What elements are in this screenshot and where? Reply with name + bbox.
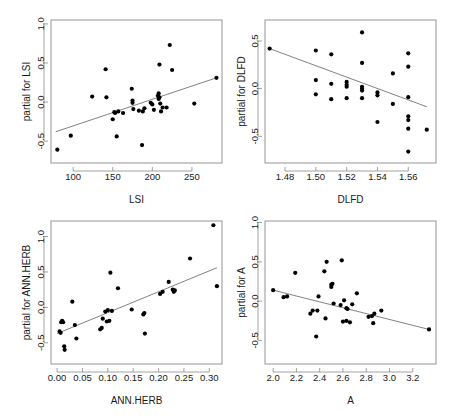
panel-lsi-data-point bbox=[164, 105, 168, 109]
panel-lsi-y-ticklabel: -0.5 bbox=[35, 133, 46, 149]
panel-annherb-data-point bbox=[62, 344, 66, 348]
panel-annherb-data-point bbox=[107, 319, 111, 323]
panel-annherb-y-ticklabel: -0.5 bbox=[35, 335, 46, 351]
panel-dlfd-x-ticklabel: 1.54 bbox=[368, 171, 387, 182]
panel-annherb-data-point bbox=[100, 326, 104, 330]
panel-a-x-axis-label: A bbox=[347, 395, 354, 406]
panel-annherb-data-point bbox=[59, 331, 63, 335]
panel-dlfd-data-point bbox=[406, 51, 410, 55]
panel-lsi-x-axis-label: LSI bbox=[129, 194, 144, 205]
panel-a-frame bbox=[265, 221, 436, 364]
panel-dlfd-data-point bbox=[268, 47, 272, 51]
panel-annherb-data-point bbox=[74, 336, 78, 340]
panel-annherb-x-ticklabel: 0.15 bbox=[124, 372, 143, 383]
panel-a-y-axis-label: partial for A bbox=[236, 267, 247, 318]
panel-annherb-x-ticklabel: 0.00 bbox=[48, 372, 67, 383]
panel-lsi-x-ticklabel: 100 bbox=[65, 171, 81, 182]
panel-annherb-y-ticklabel: 1.0 bbox=[35, 230, 46, 243]
panel-lsi-data-point bbox=[157, 91, 161, 95]
panel-lsi-data-point bbox=[121, 111, 125, 115]
panel-annherb-data-point bbox=[143, 331, 147, 335]
panel-lsi-data-point bbox=[104, 95, 108, 99]
panel-a-data-point bbox=[371, 321, 375, 325]
panel-dlfd-data-point bbox=[329, 97, 333, 101]
panel-dlfd-plot-area: -0.50.00.5partial for DLFD1.481.501.521.… bbox=[236, 20, 436, 205]
panel-lsi-data-point bbox=[168, 43, 172, 47]
panel-a-data-point bbox=[427, 327, 431, 331]
panel-dlfd-y-ticklabel: -0.5 bbox=[249, 128, 260, 144]
panel-a-data-point bbox=[323, 316, 327, 320]
panel-lsi-data-point bbox=[170, 68, 174, 72]
panel-annherb-data-point bbox=[70, 300, 74, 304]
panel-lsi-trend-line bbox=[56, 78, 217, 132]
panel-lsi-data-point bbox=[131, 107, 135, 111]
panel-annherb-frame bbox=[51, 221, 222, 364]
panel-annherb-x-axis-label: ANN.HERB bbox=[111, 395, 163, 406]
panel-annherb-data-point bbox=[142, 311, 146, 315]
panel-a: -0.50.00.51.0partial for A2.02.22.42.62.… bbox=[229, 209, 458, 418]
panel-lsi-y-ticklabel: 0.0 bbox=[35, 95, 46, 108]
panel-dlfd-y-axis-label: partial for DLFD bbox=[236, 56, 247, 127]
panel-annherb-plot-area: -0.50.00.51.0partial for ANN.HERB0.000.0… bbox=[21, 221, 222, 406]
panel-a-data-point bbox=[311, 308, 315, 312]
panel-lsi-y-ticklabel: 0.5 bbox=[35, 56, 46, 69]
panel-annherb-trend-line bbox=[57, 268, 217, 334]
panel-annherb-y-ticklabel: 0.5 bbox=[35, 265, 46, 278]
panel-annherb-data-point bbox=[108, 271, 112, 275]
panel-a-x-ticklabel: 3.2 bbox=[406, 372, 419, 383]
panel-annherb-data-point bbox=[211, 223, 215, 227]
panel-dlfd-data-point bbox=[375, 120, 379, 124]
panel-dlfd-data-point bbox=[360, 88, 364, 92]
panel-dlfd-x-ticklabel: 1.50 bbox=[307, 171, 326, 182]
panel-dlfd: -0.50.00.5partial for DLFD1.481.501.521.… bbox=[229, 0, 458, 209]
panel-annherb-data-point bbox=[167, 280, 171, 284]
panel-lsi-data-point bbox=[116, 109, 120, 113]
panel-lsi: -0.50.00.51.0partial for LSI100150200250… bbox=[0, 0, 229, 209]
panel-lsi-data-point bbox=[214, 76, 218, 80]
panel-a-y-ticklabel: -0.5 bbox=[249, 332, 260, 348]
panel-a-x-ticklabel: 2.8 bbox=[360, 372, 373, 383]
panel-lsi-data-point bbox=[104, 67, 108, 71]
panel-lsi-data-point bbox=[115, 134, 119, 138]
panel-lsi-data-point bbox=[130, 87, 134, 91]
panel-lsi-data-point bbox=[158, 102, 162, 106]
panel-dlfd-x-ticklabel: 1.56 bbox=[399, 171, 418, 182]
panel-dlfd-data-point bbox=[314, 48, 318, 52]
panel-a-data-point bbox=[341, 319, 345, 323]
panel-lsi-y-ticklabel: 1.0 bbox=[35, 17, 46, 30]
panel-lsi-frame bbox=[51, 20, 222, 163]
panel-a-x-ticklabel: 2.2 bbox=[290, 372, 303, 383]
panel-annherb-data-point bbox=[101, 317, 105, 321]
panel-annherb-data-point bbox=[106, 308, 110, 312]
panel-a-data-point bbox=[285, 294, 289, 298]
panel-dlfd-data-point bbox=[425, 128, 429, 132]
panel-annherb-x-ticklabel: 0.20 bbox=[149, 372, 168, 383]
panel-lsi-data-point bbox=[157, 62, 161, 66]
panel-a-data-point bbox=[379, 308, 383, 312]
panel-lsi-x-ticklabel: 150 bbox=[105, 171, 121, 182]
panel-annherb-x-ticklabel: 0.30 bbox=[200, 372, 219, 383]
panel-a-data-point bbox=[271, 288, 275, 292]
panel-lsi-x-ticklabel: 200 bbox=[144, 171, 160, 182]
panel-a-data-point bbox=[345, 307, 349, 311]
panel-dlfd-frame bbox=[265, 20, 436, 163]
panel-annherb-data-point bbox=[130, 307, 134, 311]
panel-a-x-ticklabel: 3.0 bbox=[383, 372, 396, 383]
panel-dlfd-data-point bbox=[329, 82, 333, 86]
panel-a-y-ticklabel: 1.0 bbox=[249, 216, 260, 229]
panel-a-data-point bbox=[314, 334, 318, 338]
panel-annherb-data-point bbox=[161, 290, 165, 294]
panel-dlfd-data-point bbox=[360, 30, 364, 34]
panel-a-x-ticklabel: 2.6 bbox=[336, 372, 349, 383]
panel-a-data-point bbox=[355, 291, 359, 295]
panel-dlfd-canvas: -0.50.00.5partial for DLFD1.481.501.521.… bbox=[229, 0, 458, 209]
panel-dlfd-x-ticklabel: 1.48 bbox=[276, 171, 295, 182]
panel-annherb-data-point bbox=[110, 309, 114, 313]
panel-lsi-data-point bbox=[111, 117, 115, 121]
panel-dlfd-data-point bbox=[314, 92, 318, 96]
panel-a-data-point bbox=[350, 302, 354, 306]
panel-a-canvas: -0.50.00.51.0partial for A2.02.22.42.62.… bbox=[229, 209, 458, 418]
panel-a-data-point bbox=[293, 271, 297, 275]
panel-a-data-point bbox=[332, 301, 336, 305]
panel-lsi-data-point bbox=[90, 94, 94, 98]
